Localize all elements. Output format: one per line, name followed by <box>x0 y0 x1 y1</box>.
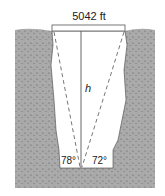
canyon-diagram: 5042 ft h 78° 72° <box>0 0 165 196</box>
right-angle-label: 72° <box>92 155 107 166</box>
width-bar <box>52 25 125 31</box>
width-label: 5042 ft <box>72 10 106 22</box>
height-label: h <box>85 82 91 94</box>
left-angle-label: 78° <box>61 155 76 166</box>
